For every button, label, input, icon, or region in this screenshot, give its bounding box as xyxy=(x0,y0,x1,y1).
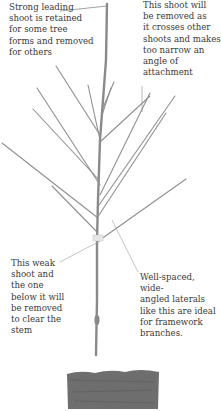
annotation-wide-laterals: Well-spaced, wide- angled laterals like … xyxy=(140,272,220,339)
annotation-weak-shoot: This weak shoot and the one below it wil… xyxy=(11,258,71,336)
annotation-leading-shoot: Strong leading shoot is retained for som… xyxy=(9,2,104,58)
branches xyxy=(2,66,186,242)
graft-union xyxy=(94,315,99,325)
annotation-crossing-shoot: This shoot will be removed as it crosses… xyxy=(143,0,221,78)
leader-line-laterals xyxy=(112,220,138,272)
weak-shoot-marker xyxy=(93,235,103,241)
soil-block xyxy=(67,370,159,409)
